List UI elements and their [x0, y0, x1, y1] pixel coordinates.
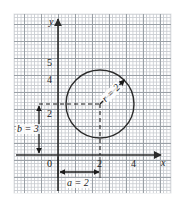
- y-axis-label: y: [49, 17, 53, 27]
- b-dimension-label: b = 3: [16, 124, 40, 134]
- x-axis-label: x: [161, 158, 165, 168]
- plot-vector-layer: [0, 0, 176, 203]
- y-tick-2: 2: [47, 109, 52, 119]
- x-tick-4: 4: [131, 159, 136, 169]
- a-dimension-label: a = 2: [66, 178, 90, 188]
- y-tick-5: 5: [47, 58, 52, 68]
- x-tick-2: 2: [97, 159, 102, 169]
- circle-graph-figure: y x 5 4 2 0 2 4 b = 3 a = 2 r = 2: [0, 0, 176, 203]
- y-tick-4: 4: [47, 75, 52, 85]
- x-tick-0: 0: [47, 159, 52, 169]
